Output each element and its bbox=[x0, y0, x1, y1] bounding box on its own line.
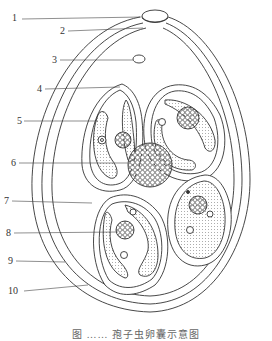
label-7: 7 bbox=[4, 196, 9, 206]
figure-caption: 图 …… 孢子虫卵囊示意图 bbox=[0, 326, 272, 341]
sporocyst-4 bbox=[168, 175, 232, 266]
label-1: 1 bbox=[12, 13, 17, 23]
residual-body bbox=[128, 143, 172, 187]
label-8: 8 bbox=[6, 228, 11, 238]
polar-granule bbox=[133, 55, 145, 63]
label-10: 10 bbox=[8, 286, 18, 296]
label-5: 5 bbox=[17, 116, 22, 126]
label-3: 3 bbox=[52, 55, 57, 65]
label-2: 2 bbox=[60, 26, 65, 36]
label-9: 9 bbox=[8, 256, 13, 266]
sporocyst-3 bbox=[94, 195, 168, 295]
micropyle-cap bbox=[142, 10, 168, 22]
label-6: 6 bbox=[11, 158, 16, 168]
label-4: 4 bbox=[37, 84, 42, 94]
